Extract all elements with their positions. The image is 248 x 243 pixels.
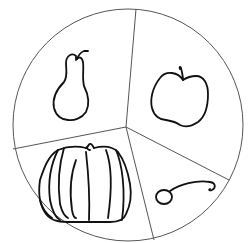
outer-circle	[13, 9, 243, 241]
divider-top	[126, 9, 136, 127]
apple-icon	[151, 67, 208, 127]
divider-left	[13, 127, 126, 149]
pie-outline	[13, 9, 243, 241]
pumpkin-icon	[39, 144, 131, 222]
cherry-icon	[156, 181, 215, 204]
pear-icon	[53, 51, 88, 120]
divider-right	[126, 127, 229, 180]
cherry-fruit	[156, 190, 172, 204]
fruit-pie-diagram	[0, 0, 248, 243]
